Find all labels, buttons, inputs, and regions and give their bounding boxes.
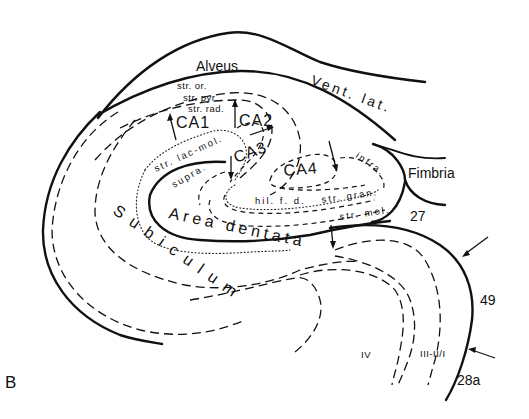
area-49-label: 49 [480, 292, 496, 308]
border-49-upper-arrow [462, 237, 488, 257]
ca3-label: CA3 [231, 138, 269, 166]
ca1-label: CA1 [176, 114, 210, 131]
ca2-arrow [232, 99, 238, 128]
alveus-label: Alveus [196, 58, 238, 74]
layer-iii-ii-i-label: III-II/I [420, 348, 446, 359]
area-dentata-label: Area dentata [167, 204, 307, 250]
entorhinal-contour [330, 225, 473, 400]
fimbria-label: Fimbria [408, 165, 455, 181]
ca1-arrow [167, 113, 176, 140]
subiculum-dashed [95, 120, 360, 288]
infra-label: infra. [354, 150, 387, 178]
alveus-contour [96, 71, 395, 140]
layer-iv-label: IV [361, 349, 371, 360]
border-28a-arrow [468, 347, 495, 358]
cortex-dashed-4 [190, 278, 321, 352]
supra-dashed [199, 172, 225, 205]
area-27-label: 27 [410, 208, 426, 224]
str-or-label: str. or. [177, 80, 207, 91]
str-rad-label: str. rad. [188, 103, 224, 114]
ca3-down-arrow [228, 156, 234, 180]
ca2-label: CA2 [239, 112, 273, 129]
hippocampus-diagram: Alveus Vent. lat. str. or. str. pyr. str… [0, 0, 529, 419]
hil-fd-label: hil. f. d. [255, 195, 306, 206]
panel-label: B [5, 373, 16, 392]
area-28a-label: 28a [457, 372, 481, 388]
ca4-arrow [329, 141, 338, 172]
str-pyr-label: str. pyr. [183, 92, 218, 103]
ca4-label: CA4 [283, 159, 318, 179]
vent-lat-label: Vent. lat. [309, 72, 394, 116]
